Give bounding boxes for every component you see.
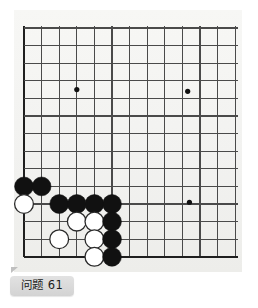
white-stone[interactable] — [50, 230, 69, 249]
black-stone[interactable] — [103, 195, 122, 214]
problem-label-text: 问题 61 — [21, 280, 63, 292]
black-stone[interactable] — [32, 177, 51, 196]
black-stone[interactable] — [15, 177, 34, 196]
star-point — [74, 87, 79, 92]
black-stone[interactable] — [67, 195, 86, 214]
black-stone[interactable] — [85, 195, 104, 214]
go-board[interactable] — [0, 0, 258, 308]
problem-label: 问题 61 — [10, 276, 74, 296]
go-board-canvas[interactable] — [0, 0, 258, 308]
white-stone[interactable] — [85, 247, 104, 266]
white-stone[interactable] — [85, 230, 104, 249]
page-corner-mark — [11, 267, 18, 273]
diagram-root: 问题 61 — [0, 0, 258, 308]
black-stone[interactable] — [103, 212, 122, 231]
black-stone[interactable] — [103, 247, 122, 266]
black-stone[interactable] — [50, 195, 69, 214]
black-stone[interactable] — [103, 230, 122, 249]
white-stone[interactable] — [15, 195, 34, 214]
white-stone[interactable] — [85, 212, 104, 231]
star-points — [74, 87, 192, 205]
grid-lines — [24, 26, 238, 257]
star-point — [185, 89, 190, 94]
white-stone[interactable] — [67, 212, 86, 231]
star-point — [187, 200, 192, 205]
